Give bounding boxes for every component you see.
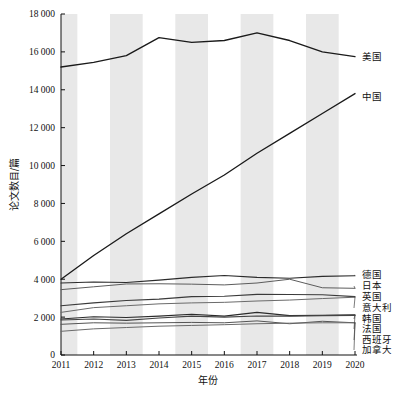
shaded-band-2013 <box>110 14 143 355</box>
legend-label-中国: 中国 <box>362 91 382 102</box>
x-tick-label: 2020 <box>346 360 365 370</box>
x-axis-title: 年份 <box>198 374 218 386</box>
x-tick-label: 2018 <box>280 360 299 370</box>
x-tick-label: 2019 <box>313 360 332 370</box>
x-tick-label: 2011 <box>52 360 71 370</box>
y-tick-label: 14 000 <box>29 85 55 95</box>
y-tick-label: 0 <box>50 350 55 360</box>
legend-label-法国: 法国 <box>362 323 382 334</box>
shaded-band-2019 <box>306 14 339 355</box>
x-tick-label: 2017 <box>248 360 267 370</box>
y-tick-label: 16 000 <box>29 47 55 57</box>
chart-container: 02 0004 0006 0008 00010 00012 00014 0001… <box>0 0 413 407</box>
legend-label-德国: 德国 <box>362 269 382 280</box>
legend-label-意大利: 意大利 <box>362 302 392 313</box>
publications-by-country-line-chart: 02 0004 0006 0008 00010 00012 00014 0001… <box>0 0 413 407</box>
y-tick-label: 10 000 <box>29 161 55 171</box>
legend-label-英国: 英国 <box>362 291 382 302</box>
shaded-band-2017 <box>241 14 274 355</box>
y-tick-label: 4 000 <box>34 275 56 285</box>
y-axis-title: 论文数目/篇 <box>8 158 20 211</box>
legend-label-加拿大: 加拿大 <box>362 344 392 355</box>
x-tick-label: 2014 <box>150 360 169 370</box>
legend-label-日本: 日本 <box>362 280 382 291</box>
x-tick-label: 2013 <box>117 360 136 370</box>
y-tick-label: 18 000 <box>29 9 55 19</box>
shaded-band-2015 <box>175 14 208 355</box>
x-tick-label: 2015 <box>182 360 201 370</box>
legend-label-美国: 美国 <box>362 51 382 62</box>
y-tick-label: 8 000 <box>34 199 56 209</box>
x-tick-label: 2016 <box>215 360 234 370</box>
y-tick-label: 2 000 <box>34 313 56 323</box>
x-tick-label: 2012 <box>84 360 103 370</box>
y-tick-label: 12 000 <box>29 123 55 133</box>
legend-leader-意大利 <box>354 297 355 308</box>
y-tick-label: 6 000 <box>34 237 56 247</box>
